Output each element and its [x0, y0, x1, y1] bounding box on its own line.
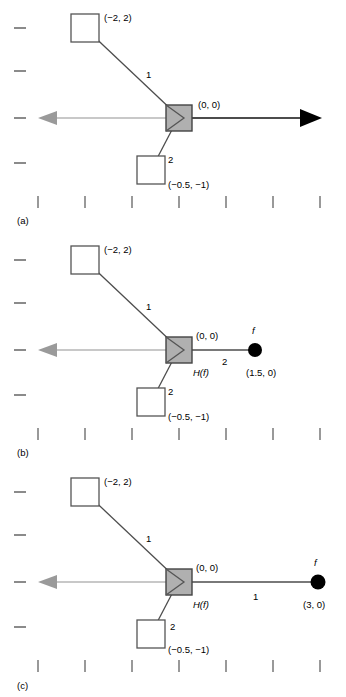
link-label-1: 1 [146, 534, 151, 544]
node-label-base: (0, 0) [198, 100, 220, 110]
axis-arrow-right-icon [300, 109, 322, 127]
panel-caption-c: (c) [17, 681, 28, 691]
panel-c: (−2, 2) 1 (0, 0) f 1 (3, 0) H(f) 2 (−0.5… [0, 464, 346, 697]
node-label-link1-end: (−2, 2) [104, 13, 132, 23]
x-axis-ticks [38, 428, 320, 440]
node-label-link2-end: (−0.5, −1) [168, 180, 209, 190]
base-hf-label: H(f) [193, 368, 209, 378]
goal-label-f: f [314, 558, 317, 568]
figure-root: (−2, 2) 1 (0, 0) 2 (−0.5, −1) (a) [0, 0, 346, 697]
node-base [166, 105, 192, 131]
node-link2-end [137, 388, 165, 416]
x-axis-ticks [38, 196, 320, 208]
base-hf-label: H(f) [193, 600, 209, 610]
panel-b-canvas [0, 232, 346, 464]
panel-a: (−2, 2) 1 (0, 0) 2 (−0.5, −1) (a) [0, 0, 346, 232]
node-label-link2-end: (−0.5, −1) [168, 412, 209, 422]
node-label-link1-end: (−2, 2) [104, 477, 132, 487]
panel-c-canvas [0, 464, 346, 697]
axis-arrow-left-icon [38, 575, 57, 589]
goal-coord-label: (1.5, 0) [246, 368, 276, 378]
goal-point-f [248, 343, 262, 357]
goal-label-f: f [252, 326, 255, 336]
y-axis-ticks [14, 260, 26, 395]
link-label-2: 2 [168, 155, 173, 165]
node-base [166, 337, 192, 363]
node-link1-end [71, 14, 99, 42]
axis-arrow-left-icon [38, 343, 57, 357]
panel-b: (−2, 2) 1 (0, 0) f 2 (1.5, 0) H(f) 2 (−0… [0, 232, 346, 464]
link-label-2: 2 [170, 622, 175, 632]
panel-caption-b: (b) [17, 448, 29, 458]
node-link2-end [137, 620, 165, 648]
axis-arrow-left-icon [38, 111, 57, 125]
node-link1-end [71, 246, 99, 274]
link-label-2: 2 [168, 387, 173, 397]
node-link1-end [71, 478, 99, 506]
link-label-1: 1 [146, 70, 151, 80]
goal-coord-label: (3, 0) [303, 600, 325, 610]
panel-a-canvas [0, 0, 346, 232]
link-label-1: 1 [146, 302, 151, 312]
link-label-3: 2 [222, 357, 227, 367]
y-axis-ticks [14, 492, 26, 627]
link-label-3: 1 [253, 592, 258, 602]
y-axis-ticks [14, 28, 26, 163]
node-label-link2-end: (−0.5, −1) [168, 645, 209, 655]
node-base [166, 569, 192, 595]
node-label-base: (0, 0) [196, 563, 218, 573]
node-link2-end [137, 156, 165, 184]
panel-caption-a: (a) [17, 216, 29, 226]
goal-point-f [311, 575, 326, 590]
x-axis-ticks [38, 660, 320, 672]
node-label-base: (0, 0) [196, 331, 218, 341]
node-label-link1-end: (−2, 2) [104, 245, 132, 255]
